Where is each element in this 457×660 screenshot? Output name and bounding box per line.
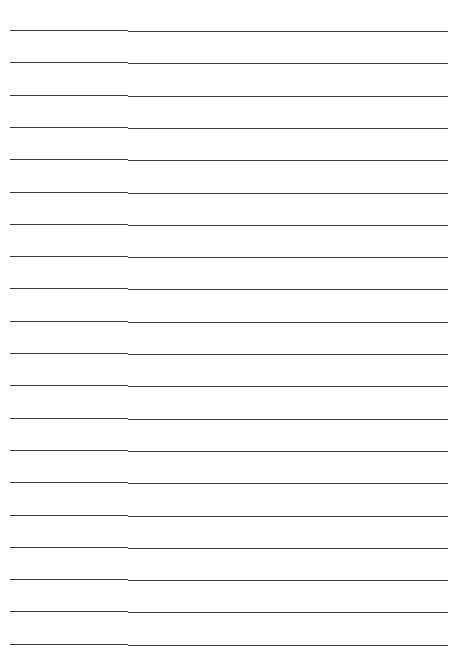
ruled-line [10, 224, 448, 226]
ruled-line-right-segment [128, 419, 448, 420]
ruled-line [10, 611, 448, 613]
ruled-line [10, 515, 448, 517]
ruled-line [10, 30, 448, 32]
ruled-line-right-segment [128, 257, 448, 258]
ruled-line [10, 450, 448, 452]
ruled-line-left-segment [10, 353, 128, 354]
ruled-line-right-segment [128, 289, 448, 290]
ruled-line-right-segment [128, 548, 448, 549]
ruled-line-left-segment [10, 611, 128, 612]
ruled-line-right-segment [128, 483, 448, 484]
ruled-line [10, 418, 448, 420]
ruled-line [10, 62, 448, 64]
ruled-line [10, 321, 448, 323]
ruled-line [10, 482, 448, 484]
ruled-line-right-segment [128, 160, 448, 161]
ruled-line-right-segment [128, 322, 448, 323]
ruled-line-right-segment [128, 31, 448, 32]
ruled-line-left-segment [10, 450, 128, 451]
ruled-line-left-segment [10, 159, 128, 160]
ruled-line [10, 644, 448, 646]
ruled-line [10, 159, 448, 161]
ruled-line [10, 95, 448, 97]
ruled-line-right-segment [128, 645, 448, 646]
ruled-line [10, 256, 448, 258]
ruled-line [10, 353, 448, 355]
ruled-line-right-segment [128, 386, 448, 387]
ruled-line-left-segment [10, 62, 128, 63]
ruled-line [10, 385, 448, 387]
ruled-line-right-segment [128, 128, 448, 129]
ruled-line [10, 127, 448, 129]
ruled-line-right-segment [128, 451, 448, 452]
ruled-line [10, 288, 448, 290]
ruled-line-left-segment [10, 95, 128, 96]
ruled-line-right-segment [128, 580, 448, 581]
ruled-line [10, 192, 448, 194]
ruled-line-right-segment [128, 225, 448, 226]
ruled-line-right-segment [128, 612, 448, 613]
ruled-line-right-segment [128, 516, 448, 517]
ruled-line-right-segment [128, 354, 448, 355]
ruled-line-left-segment [10, 127, 128, 128]
ruled-line-left-segment [10, 30, 128, 31]
ruled-line-left-segment [10, 385, 128, 386]
ruled-line-left-segment [10, 224, 128, 225]
ruled-line-left-segment [10, 192, 128, 193]
ruled-line-left-segment [10, 482, 128, 483]
ruled-line-left-segment [10, 644, 128, 645]
ruled-line-left-segment [10, 547, 128, 548]
ruled-line-left-segment [10, 288, 128, 289]
ruled-line-right-segment [128, 63, 448, 64]
ruled-line-left-segment [10, 515, 128, 516]
ruled-line-left-segment [10, 256, 128, 257]
ruled-line-right-segment [128, 193, 448, 194]
ruled-line-left-segment [10, 579, 128, 580]
ruled-line [10, 547, 448, 549]
ruled-line-left-segment [10, 321, 128, 322]
ruled-line-left-segment [10, 418, 128, 419]
ruled-line-right-segment [128, 96, 448, 97]
lined-page [0, 0, 457, 660]
ruled-line [10, 579, 448, 581]
